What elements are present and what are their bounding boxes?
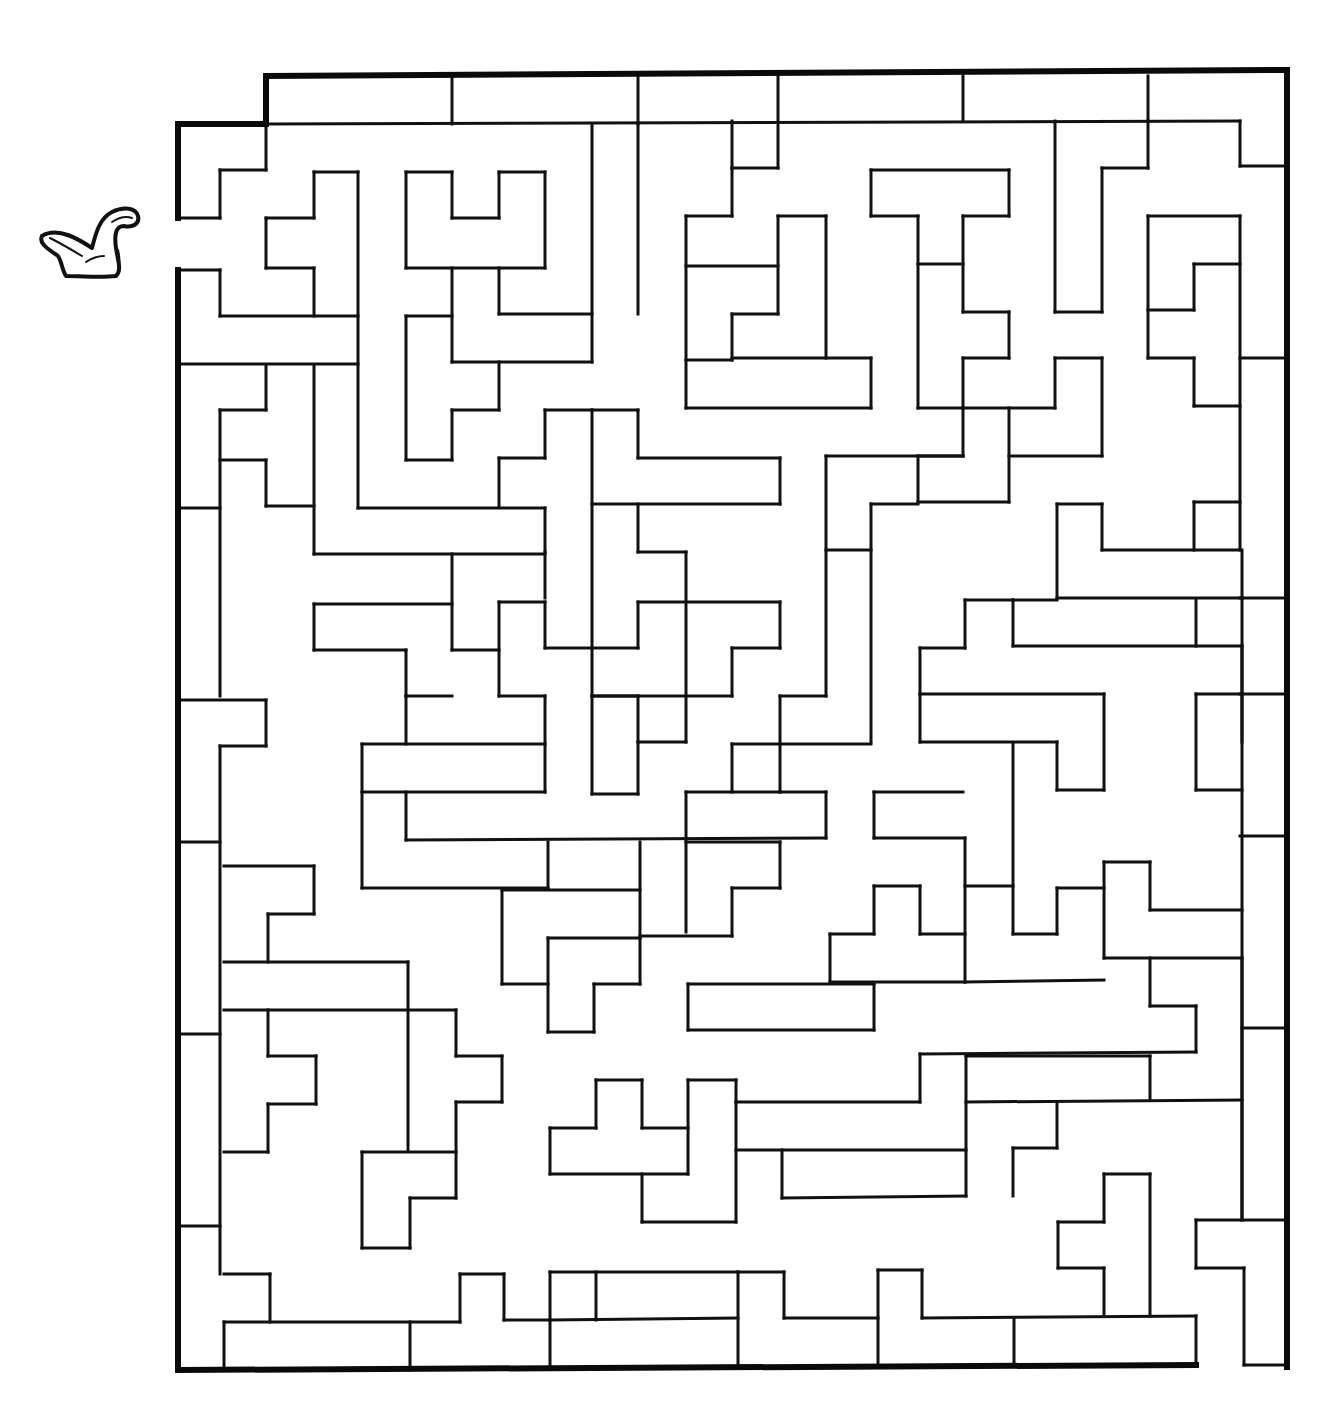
- maze-border-wall: [178, 1365, 1196, 1370]
- maze-walls: [178, 76, 1287, 1370]
- maze-wall: [782, 1196, 966, 1198]
- maze-wall: [920, 1052, 1196, 1054]
- maze-wall: [922, 1316, 1196, 1318]
- maze-wall: [406, 838, 826, 840]
- maze-wall: [266, 121, 1240, 124]
- maze-wall: [550, 1318, 738, 1320]
- maze-wall: [965, 980, 1104, 982]
- maze: [0, 0, 1343, 1422]
- bird-icon: [41, 209, 138, 277]
- maze-wall: [966, 1100, 1242, 1102]
- maze-border-wall: [266, 70, 1287, 76]
